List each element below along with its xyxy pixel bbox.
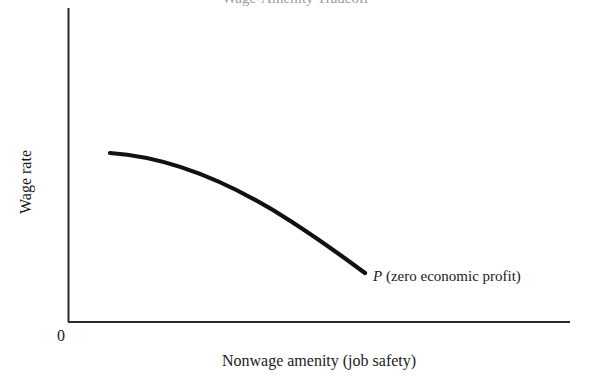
y-axis-label: Wage rate	[18, 150, 34, 214]
isoprofit-curve	[110, 153, 365, 273]
plot-canvas	[0, 0, 591, 388]
origin-label: 0	[57, 328, 65, 344]
x-axis-label: Nonwage amenity (job safety)	[222, 353, 416, 369]
economics-figure: Wage-Amenity Tradeoff Wage rate Nonwage …	[0, 0, 591, 388]
curve-annotation-text: (zero economic profit)	[382, 268, 521, 284]
curve-annotation: P (zero economic profit)	[373, 269, 521, 284]
curve-annotation-symbol: P	[373, 268, 382, 284]
